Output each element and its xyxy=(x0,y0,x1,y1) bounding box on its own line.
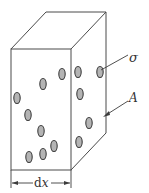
particle xyxy=(77,89,83,100)
side-face xyxy=(71,12,106,170)
side-face-particles xyxy=(75,67,103,148)
dim-arrow-left-icon xyxy=(12,181,18,185)
dim-arrow-right-icon xyxy=(64,181,70,185)
top-face xyxy=(11,12,106,49)
area-label: A xyxy=(128,91,138,105)
particle xyxy=(14,93,20,104)
particle xyxy=(40,79,46,90)
sigma-label: σ xyxy=(129,50,139,65)
front-face-particles xyxy=(14,69,65,163)
particle xyxy=(86,118,92,129)
particle xyxy=(75,67,81,78)
particle xyxy=(26,152,32,163)
dx-label-x: x xyxy=(42,176,49,190)
particle xyxy=(51,141,57,152)
dx-label: dx xyxy=(34,176,49,190)
sigma-leader-line xyxy=(101,55,128,70)
particle xyxy=(38,126,44,137)
particle xyxy=(59,69,65,80)
volume-element-diagram: σ A dx xyxy=(0,0,149,193)
box-outline xyxy=(11,12,106,170)
dx-dimension: dx xyxy=(11,170,71,190)
particle xyxy=(76,137,82,148)
particle xyxy=(40,149,46,160)
particle xyxy=(97,67,103,78)
particle xyxy=(25,110,31,121)
